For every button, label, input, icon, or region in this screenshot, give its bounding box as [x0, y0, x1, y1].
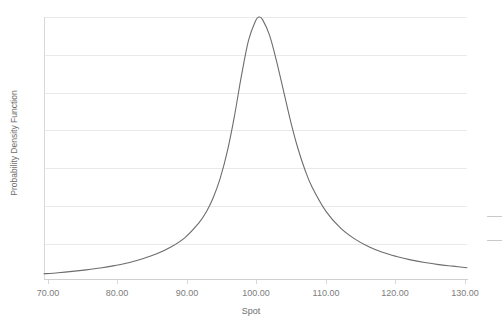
edge-dash-upper: [487, 216, 502, 217]
x-tick-mark: [117, 280, 118, 284]
x-tick-label: 110.00: [296, 288, 356, 298]
x-tick-label: 130.00: [435, 288, 495, 298]
edge-dash-lower: [487, 240, 502, 241]
x-tick-mark: [187, 280, 188, 284]
x-tick-label: 90.00: [157, 288, 217, 298]
x-tick-label: 120.00: [365, 288, 425, 298]
y-axis-title: Probability Density Function: [9, 53, 19, 233]
x-tick-label: 80.00: [87, 288, 147, 298]
x-tick-label: 70.00: [18, 288, 78, 298]
x-axis-title: Spot: [0, 306, 502, 316]
gridline: [44, 130, 467, 131]
x-tick-mark: [326, 280, 327, 284]
x-tick-mark: [395, 280, 396, 284]
x-tick-mark: [48, 280, 49, 284]
gridline: [44, 93, 467, 94]
gridline: [44, 168, 467, 169]
gridline: [44, 55, 467, 56]
x-tick-mark: [465, 280, 466, 284]
x-tick-mark: [256, 280, 257, 284]
x-tick-label: 100.00: [226, 288, 286, 298]
y-axis-line: [44, 17, 45, 280]
chart-screenshot: 70.00 80.00 90.00 100.00 110.00 120.00 1…: [0, 0, 502, 330]
gridline: [44, 206, 467, 207]
gridline: [44, 17, 467, 18]
plot-area: [44, 17, 467, 279]
gridline: [44, 244, 467, 245]
